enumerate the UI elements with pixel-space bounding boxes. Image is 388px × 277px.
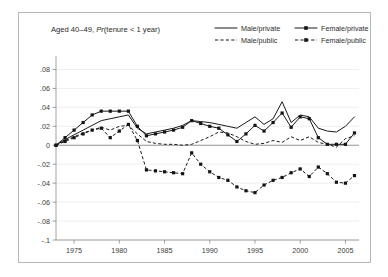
data-point-marker bbox=[299, 115, 302, 118]
x-axis-tick-label: 2005 bbox=[337, 246, 353, 255]
data-point-marker bbox=[199, 122, 202, 125]
series-line-female-public bbox=[56, 124, 354, 192]
chart-title: Aged 40–49, Pr(tenure < 1 year) bbox=[51, 25, 161, 34]
data-point-marker bbox=[163, 130, 166, 133]
axis-lines-group bbox=[56, 56, 359, 240]
y-axis-tick-label: -.06 bbox=[38, 198, 50, 207]
series-line-male-private bbox=[56, 102, 354, 146]
x-axis-tick-label: 1980 bbox=[111, 246, 127, 255]
data-point-marker bbox=[72, 136, 75, 139]
data-point-marker bbox=[281, 176, 284, 179]
chart-legend: Male/privateFemale/privateMale/publicFem… bbox=[215, 24, 369, 45]
data-point-marker bbox=[244, 189, 247, 192]
y-axis-tick-label: 0 bbox=[46, 141, 50, 150]
data-point-marker bbox=[335, 181, 338, 184]
data-point-marker bbox=[262, 183, 265, 186]
data-point-marker bbox=[244, 132, 247, 135]
legend-entry: Female/private bbox=[295, 24, 369, 33]
data-point-marker bbox=[63, 140, 66, 143]
legend-marker-icon bbox=[304, 38, 308, 42]
data-point-marker bbox=[253, 191, 256, 194]
data-point-marker bbox=[100, 127, 103, 130]
data-point-marker bbox=[208, 170, 211, 173]
legend-label: Female/private bbox=[321, 24, 369, 33]
y-axis-tick-label: -.04 bbox=[38, 179, 50, 188]
data-point-marker bbox=[353, 131, 356, 134]
y-axis-tick-label: .04 bbox=[40, 103, 50, 112]
data-point-marker bbox=[154, 169, 157, 172]
data-point-marker bbox=[190, 119, 193, 122]
y-axis-tick-label: -.08 bbox=[38, 217, 50, 226]
x-axis-tick-label: 1995 bbox=[247, 246, 263, 255]
data-point-marker bbox=[253, 124, 256, 127]
data-point-marker bbox=[145, 168, 148, 171]
data-point-marker bbox=[109, 110, 112, 113]
x-axis-tick-label: 1985 bbox=[157, 246, 173, 255]
data-point-marker bbox=[235, 140, 238, 143]
data-point-marker bbox=[172, 171, 175, 174]
data-point-marker bbox=[127, 110, 130, 113]
y-axis-tick-label: .06 bbox=[40, 84, 50, 93]
data-point-marker bbox=[208, 125, 211, 128]
data-point-marker bbox=[118, 110, 121, 113]
data-point-marker bbox=[226, 179, 229, 182]
data-point-marker bbox=[290, 126, 293, 129]
x-axis-tick-label: 2000 bbox=[292, 246, 308, 255]
data-point-marker bbox=[91, 113, 94, 116]
chart-canvas: .08.06.04.020-.02-.04-.06-.08-.1 1975198… bbox=[19, 13, 370, 262]
data-point-marker bbox=[127, 123, 130, 126]
data-point-marker bbox=[226, 133, 229, 136]
data-point-marker bbox=[199, 163, 202, 166]
data-point-marker bbox=[217, 176, 220, 179]
data-point-marker bbox=[271, 121, 274, 124]
data-point-marker bbox=[299, 167, 302, 170]
data-point-marker bbox=[235, 185, 238, 188]
legend-entry: Male/public bbox=[215, 36, 278, 45]
data-point-marker bbox=[136, 125, 139, 128]
y-axis-tick-label: .08 bbox=[40, 65, 50, 74]
data-point-marker bbox=[72, 129, 75, 132]
data-point-marker bbox=[172, 129, 175, 132]
x-axis-tick-label: 1975 bbox=[66, 246, 82, 255]
data-point-marker bbox=[326, 172, 329, 175]
data-point-marker bbox=[281, 111, 284, 114]
data-point-marker bbox=[154, 132, 157, 135]
data-point-marker bbox=[217, 127, 220, 130]
legend-marker-icon bbox=[304, 26, 308, 30]
data-point-marker bbox=[344, 182, 347, 185]
data-point-marker bbox=[308, 117, 311, 120]
legend-label: Male/private bbox=[241, 24, 280, 33]
data-point-marker bbox=[82, 121, 85, 124]
chart-frame: .08.06.04.020-.02-.04-.06-.08-.1 1975198… bbox=[18, 12, 371, 263]
data-point-marker bbox=[290, 171, 293, 174]
data-point-marker bbox=[353, 174, 356, 177]
data-point-marker bbox=[317, 165, 320, 168]
data-point-marker bbox=[308, 175, 311, 178]
legend-label: Female/public bbox=[321, 36, 366, 45]
legend-entry: Male/private bbox=[215, 24, 280, 33]
x-axis-labels-group: 1975198019851990199520002005 bbox=[66, 246, 353, 255]
data-point-marker bbox=[271, 179, 274, 182]
data-point-marker bbox=[100, 110, 103, 113]
data-point-marker bbox=[190, 151, 193, 154]
data-point-marker bbox=[344, 143, 347, 146]
y-axis-tick-label: -.1 bbox=[42, 236, 50, 245]
data-point-marker bbox=[54, 144, 57, 147]
data-point-marker bbox=[181, 126, 184, 129]
y-axis-labels-group: .08.06.04.020-.02-.04-.06-.08-.1 bbox=[38, 65, 50, 245]
legend-entry: Female/public bbox=[295, 36, 366, 45]
tickmarks-group bbox=[53, 69, 346, 243]
x-axis-tick-label: 1990 bbox=[202, 246, 218, 255]
data-point-marker bbox=[91, 129, 94, 132]
y-axis-tick-label: -.02 bbox=[38, 160, 50, 169]
data-point-marker bbox=[109, 136, 112, 139]
chart-figure: .08.06.04.020-.02-.04-.06-.08-.1 1975198… bbox=[0, 0, 388, 277]
data-point-marker bbox=[118, 129, 121, 132]
gridlines-group bbox=[56, 69, 359, 240]
y-axis-tick-label: .02 bbox=[40, 122, 50, 131]
data-point-marker bbox=[181, 172, 184, 175]
data-point-marker bbox=[136, 139, 139, 142]
legend-label: Male/public bbox=[241, 36, 278, 45]
data-point-marker bbox=[163, 170, 166, 173]
data-point-marker bbox=[145, 134, 148, 137]
